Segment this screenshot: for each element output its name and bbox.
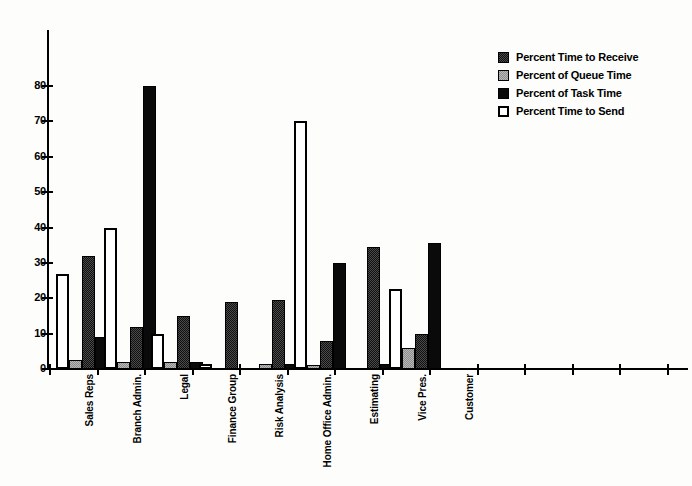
bar-group (341, 69, 393, 369)
y-axis-tick-label: 40 (20, 222, 46, 233)
y-axis-tick-label: 60 (20, 151, 46, 162)
x-axis-tick (619, 364, 621, 375)
bar-finance-group-percent-time-to-receive (225, 302, 238, 369)
bar-legal-percent-time-to-send (151, 334, 164, 369)
bar-sales-reps-percent-time-to-receive (82, 256, 95, 369)
x-axis-label-home-office-admin: Home Office Admin. (322, 374, 333, 467)
chart-legend: Percent Time to ReceivePercent of Queue … (498, 50, 638, 122)
legend-item: Percent of Task Time (498, 86, 638, 101)
y-axis-tick-label: 80 (20, 80, 46, 91)
bar-group (151, 69, 203, 369)
bar-vice-pres-percent-time-to-send (389, 289, 402, 369)
y-axis-tick-label: 20 (20, 292, 46, 303)
bar-chart: 01020304050607080 Sales RepsBranch Admin… (0, 0, 692, 486)
x-axis-tick (572, 364, 574, 375)
bar-branch-admin-percent-of-queue-time (117, 362, 130, 369)
x-axis-label-sales-reps: Sales Reps (84, 374, 95, 426)
bar-group (389, 69, 441, 369)
bar-finance-group-percent-time-to-send (199, 364, 212, 369)
legend-swatch-percent-of-task-time (498, 88, 509, 99)
legend-label-percent-of-task-time: Percent of Task Time (516, 88, 622, 99)
bar-group (104, 69, 156, 369)
x-axis-tick (524, 364, 526, 375)
bar-group (436, 69, 488, 369)
bar-legal-percent-time-to-receive (177, 316, 190, 369)
bar-home-office-admin-percent-of-queue-time (307, 365, 320, 369)
x-axis-tick (49, 364, 51, 375)
bar-group (56, 69, 108, 369)
y-axis-tick-label: 70 (20, 115, 46, 126)
x-axis-tick (667, 364, 669, 375)
x-axis-label-vice-pres: Vice Pres. (417, 374, 428, 421)
bar-branch-admin-percent-time-to-send (104, 228, 117, 370)
x-axis-label-risk-analysis: Risk Analysis (274, 374, 285, 437)
legend-swatch-percent-of-queue-time (498, 70, 509, 81)
y-axis-tick-label: 0 (20, 363, 46, 374)
legend-swatch-percent-time-to-send (498, 106, 509, 117)
legend-item: Percent Time to Send (498, 104, 638, 119)
bar-group (246, 69, 298, 369)
legend-item: Percent Time to Receive (498, 50, 638, 65)
x-axis-label-estimating: Estimating (369, 374, 380, 424)
bar-home-office-admin-percent-time-to-send (294, 121, 307, 369)
bar-estimating-percent-time-to-receive (367, 247, 380, 369)
bar-vice-pres-percent-of-queue-time (402, 348, 415, 369)
y-axis-tick-label: 30 (20, 257, 46, 268)
bar-vice-pres-percent-time-to-receive (415, 334, 428, 369)
bar-sales-reps-percent-time-to-send (56, 274, 69, 370)
bar-risk-analysis-percent-of-queue-time (259, 364, 272, 369)
legend-label-percent-time-to-receive: Percent Time to Receive (516, 52, 638, 63)
x-axis-label-branch-admin: Branch Admin. (132, 374, 143, 443)
bar-legal-percent-of-queue-time (164, 362, 177, 369)
legend-item: Percent of Queue Time (498, 68, 638, 83)
y-axis-tick-label: 50 (20, 186, 46, 197)
x-axis-label-finance-group: Finance Group (227, 374, 238, 443)
bar-home-office-admin-percent-time-to-receive (320, 341, 333, 369)
legend-label-percent-time-to-send: Percent Time to Send (516, 106, 624, 117)
y-axis-line (47, 30, 49, 370)
y-axis-tick-label: 10 (20, 328, 46, 339)
bar-branch-admin-percent-time-to-receive (130, 327, 143, 369)
x-axis-label-customer: Customer (464, 374, 475, 420)
bar-group (294, 69, 346, 369)
legend-label-percent-of-queue-time: Percent of Queue Time (516, 70, 631, 81)
bar-sales-reps-percent-of-queue-time (69, 360, 82, 369)
legend-swatch-percent-time-to-receive (498, 52, 509, 63)
bar-group (199, 69, 251, 369)
x-axis-label-legal: Legal (179, 374, 190, 400)
bar-risk-analysis-percent-time-to-receive (272, 300, 285, 369)
